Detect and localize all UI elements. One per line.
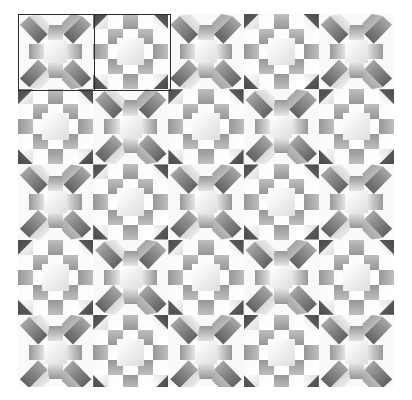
quilt-block-nine-patch — [93, 315, 168, 387]
quilt-cell — [78, 119, 93, 134]
quilt-cell — [334, 300, 349, 315]
quilt-star-arm — [212, 208, 244, 240]
quilt-cell — [229, 134, 244, 149]
quilt-cell — [364, 240, 379, 255]
quilt-cell — [117, 339, 144, 366]
quilt-half-square-triangle — [379, 240, 394, 255]
quilt-half-square-triangle — [18, 149, 33, 164]
quilt-cell — [153, 345, 168, 360]
quilt-block-star-cross — [168, 14, 243, 89]
quilt-cell — [123, 225, 138, 240]
quilt-half-square-triangle — [168, 149, 183, 164]
quilt-half-square-triangle — [168, 240, 183, 255]
quilt-star-arm — [212, 14, 244, 46]
quilt-cell — [289, 315, 304, 330]
quilt-cell — [259, 225, 274, 240]
quilt-cell — [168, 104, 183, 119]
quilt-cell — [244, 360, 259, 375]
quilt-cell — [78, 134, 93, 149]
annotation-rect-block-a[interactable] — [18, 14, 95, 91]
quilt-cell — [268, 38, 295, 65]
quilt-half-square-triangle — [319, 89, 334, 104]
quilt-block-star-cross — [93, 240, 168, 315]
quilt-cell — [42, 113, 69, 140]
quilt-cell — [78, 285, 93, 300]
quilt-star-arm — [137, 89, 169, 121]
quilt-cell — [153, 330, 168, 345]
quilt-cell — [289, 74, 304, 89]
quilt-cell — [138, 375, 153, 387]
quilt-block-nine-patch — [18, 240, 93, 315]
quilt-cell — [319, 255, 334, 270]
quilt-half-square-triangle — [244, 164, 259, 179]
quilt-half-square-triangle — [379, 149, 394, 164]
quilt-cell — [108, 164, 123, 179]
quilt-cell — [379, 134, 394, 149]
quilt-cell — [123, 375, 138, 387]
quilt-cell — [18, 134, 33, 149]
quilt-star-arm — [168, 164, 200, 196]
quilt-cell — [379, 285, 394, 300]
quilt-star-arm — [93, 133, 125, 165]
quilt-cell — [78, 104, 93, 119]
quilt-cell — [229, 285, 244, 300]
quilt-half-square-triangle — [153, 225, 168, 240]
quilt-cell — [93, 330, 108, 345]
quilt-cell — [244, 179, 259, 194]
quilt-block-star-cross — [168, 315, 243, 387]
quilt-cell — [274, 315, 289, 330]
quilt-star-arm — [62, 358, 94, 387]
quilt-cell — [343, 113, 370, 140]
quilt-star-arm — [62, 164, 94, 196]
quilt-cell — [244, 194, 259, 209]
quilt-block-nine-patch — [319, 89, 394, 164]
quilt-star-arm — [287, 283, 319, 315]
quilt-star-arm — [244, 89, 276, 121]
quilt-half-square-triangle — [244, 315, 259, 330]
quilt-cell — [334, 89, 349, 104]
quilt-half-square-triangle — [244, 14, 259, 29]
quilt-star-arm — [319, 208, 351, 240]
quilt-cell — [198, 149, 213, 164]
quilt-half-square-triangle — [93, 225, 108, 240]
quilt-half-square-triangle — [244, 74, 259, 89]
quilt-star-arm — [137, 283, 169, 315]
quilt-cell — [183, 149, 198, 164]
annotation-rect-block-b[interactable] — [94, 14, 171, 91]
quilt-block-star-cross — [244, 240, 319, 315]
quilt-cell — [93, 360, 108, 375]
quilt-cell — [244, 44, 259, 59]
quilt-cell — [289, 14, 304, 29]
quilt-star-arm — [362, 358, 394, 387]
quilt-cell — [198, 300, 213, 315]
quilt-cell — [274, 74, 289, 89]
quilt-cell — [168, 270, 183, 285]
quilt-cell — [63, 149, 78, 164]
quilt-cell — [63, 300, 78, 315]
quilt-half-square-triangle — [244, 225, 259, 240]
quilt-cell — [244, 345, 259, 360]
quilt-cell — [334, 240, 349, 255]
quilt-half-square-triangle — [18, 89, 33, 104]
quilt-half-square-triangle — [153, 315, 168, 330]
quilt-star-arm — [212, 164, 244, 196]
quilt-cell — [274, 164, 289, 179]
quilt-cell — [364, 300, 379, 315]
quilt-cell — [343, 264, 370, 291]
quilt-star-arm — [18, 315, 50, 347]
quilt-cell — [63, 240, 78, 255]
quilt-cell — [48, 300, 63, 315]
quilt-cell — [244, 59, 259, 74]
quilt-half-square-triangle — [304, 164, 319, 179]
quilt-cell — [289, 164, 304, 179]
quilt-cell — [319, 104, 334, 119]
quilt-cell — [78, 255, 93, 270]
quilt-star-arm — [244, 283, 276, 315]
quilt-cell — [168, 119, 183, 134]
quilt-star-arm — [319, 164, 351, 196]
quilt-cell — [93, 179, 108, 194]
quilt-cell — [33, 300, 48, 315]
quilt-cell — [379, 104, 394, 119]
quilt-half-square-triangle — [18, 240, 33, 255]
quilt-cell — [268, 188, 295, 215]
